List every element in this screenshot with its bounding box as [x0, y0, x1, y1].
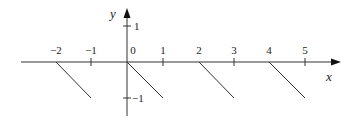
x-tick-label: 0: [130, 44, 136, 56]
data-series: [56, 62, 305, 98]
y-axis-label: y: [108, 6, 116, 21]
y-tick-label: −1: [132, 92, 144, 104]
function-graph: −2 −1 0 1 2 3 4 5 1 −1 x y: [0, 0, 357, 124]
x-axis-label: x: [325, 69, 332, 84]
segment-3: [199, 62, 234, 98]
y-tick-label: 1: [134, 20, 140, 32]
x-tick-label: 2: [196, 44, 202, 56]
segment-4: [269, 62, 305, 98]
x-tick-label: −1: [85, 44, 97, 56]
y-axis-arrow-icon: [124, 8, 131, 18]
x-tick-label: 1: [160, 44, 166, 56]
x-tick-label: 3: [231, 44, 237, 56]
segment-1: [56, 62, 91, 98]
x-axis-arrow-icon: [331, 59, 341, 66]
x-tick-label: 5: [302, 44, 308, 56]
x-tick-label: 4: [266, 44, 272, 56]
x-tick-label: −2: [50, 44, 62, 56]
